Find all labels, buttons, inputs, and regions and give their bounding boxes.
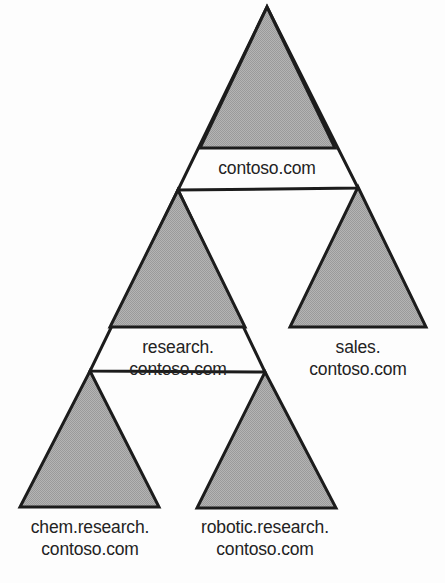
sales-triangle-fill [290,187,426,327]
robotic-triangle-fill [197,372,336,508]
chem-triangle-fill [20,371,159,507]
root-triangle-fill [200,7,335,148]
research-triangle-fill [110,190,245,327]
domain-tree-diagram: contoso.com research. contoso.com sales.… [0,0,445,583]
tree-shapes-svg [0,0,445,583]
